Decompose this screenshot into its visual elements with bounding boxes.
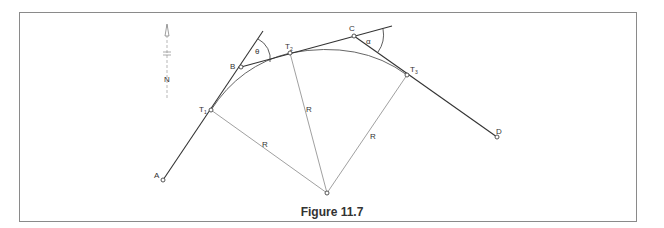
label-c: C	[349, 24, 355, 33]
north-arrow-icon	[163, 24, 171, 100]
radius-label-3: R	[370, 132, 376, 141]
point-c	[352, 34, 356, 38]
radius-label-2: R	[306, 105, 312, 114]
theta-label: θ	[255, 47, 260, 56]
point-t1	[209, 108, 213, 112]
radius-label-1: R	[262, 140, 268, 149]
label-d: D	[496, 127, 502, 136]
figure-caption: Figure 11.7	[0, 205, 664, 219]
label-t3: T3	[410, 65, 418, 75]
label-a: A	[154, 171, 160, 180]
label-t1: T1	[199, 105, 207, 115]
tangent-line-a-b	[163, 31, 263, 180]
curve-diagram: N θ α A T1 B T2 C T3 D R R R	[0, 0, 664, 228]
label-b: B	[230, 62, 235, 71]
point-center	[325, 191, 329, 195]
theta-angle-arc	[258, 39, 270, 62]
radius-t2	[290, 53, 327, 193]
label-t2: T2	[285, 42, 293, 52]
point-t3	[405, 73, 409, 77]
radius-t3	[327, 75, 407, 193]
radius-t1	[211, 110, 327, 193]
point-b	[239, 65, 243, 69]
point-a	[161, 178, 165, 182]
alpha-label: α	[366, 37, 371, 46]
alpha-angle-arc	[378, 29, 384, 52]
north-label: N	[164, 75, 170, 84]
circular-arc	[211, 49, 407, 110]
